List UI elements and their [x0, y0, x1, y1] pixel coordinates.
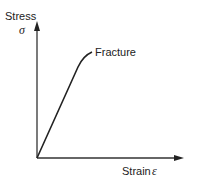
- x-axis-label: Strain: [122, 165, 151, 177]
- x-axis-arrow-icon: [174, 155, 184, 161]
- diagram-canvas: [0, 0, 214, 182]
- y-axis-symbol: σ: [19, 24, 25, 36]
- x-axis-symbol: ε: [152, 165, 157, 177]
- y-axis-arrow-icon: [34, 21, 40, 31]
- y-axis-label: Stress: [5, 10, 36, 22]
- fracture-label: Fracture: [95, 46, 136, 58]
- stress-strain-curve: [37, 52, 92, 158]
- stress-strain-diagram: Stress σ Fracture Strain ε: [0, 0, 214, 182]
